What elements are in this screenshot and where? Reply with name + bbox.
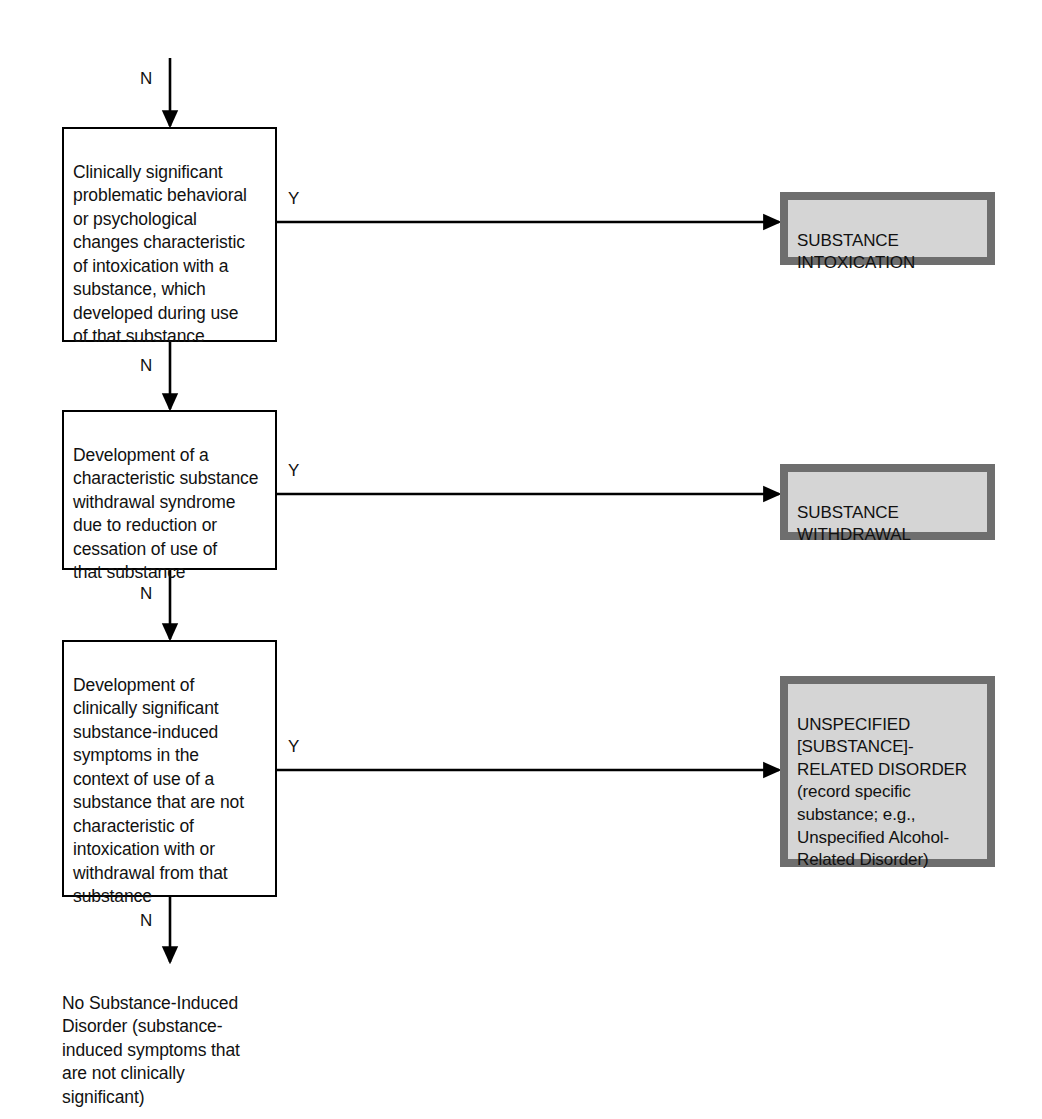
criterion-box-unspecified[interactable]: Development of clinically significant su… (62, 640, 277, 897)
terminal-text: No Substance-Induced Disorder (substance… (62, 993, 240, 1107)
entry-label-n: N (140, 70, 152, 87)
criterion-text-unspecified: Development of clinically significant su… (73, 675, 244, 907)
outcome-box-substance-withdrawal[interactable]: SUBSTANCE WITHDRAWAL (780, 464, 995, 540)
outcome-text-unspecified-substance-related-disorder: UNSPECIFIED [SUBSTANCE]- RELATED DISORDE… (797, 715, 967, 870)
outcome-text-substance-intoxication: SUBSTANCE INTOXICATION (797, 231, 915, 273)
outcome-box-unspecified-substance-related-disorder[interactable]: UNSPECIFIED [SUBSTANCE]- RELATED DISORDE… (780, 676, 995, 867)
yes-label-intoxication: Y (288, 190, 299, 207)
outcome-text-substance-withdrawal: SUBSTANCE WITHDRAWAL (797, 503, 911, 545)
criterion-box-intoxication[interactable]: Clinically significant problematic behav… (62, 127, 277, 342)
terminal-no-substance-induced-disorder: No Substance-Induced Disorder (substance… (62, 968, 312, 1109)
no-label-unspecified: N (140, 912, 152, 929)
yes-label-withdrawal: Y (288, 462, 299, 479)
criterion-box-withdrawal[interactable]: Development of a characteristic substanc… (62, 410, 277, 570)
criterion-text-intoxication: Clinically significant problematic behav… (73, 162, 247, 347)
no-label-withdrawal: N (140, 585, 152, 602)
no-label-intoxication: N (140, 357, 152, 374)
yes-label-unspecified: Y (288, 738, 299, 755)
outcome-box-substance-intoxication[interactable]: SUBSTANCE INTOXICATION (780, 192, 995, 265)
criterion-text-withdrawal: Development of a characteristic substanc… (73, 445, 258, 583)
decision-tree-diagram: N Clinically significant problematic beh… (0, 0, 1042, 1119)
